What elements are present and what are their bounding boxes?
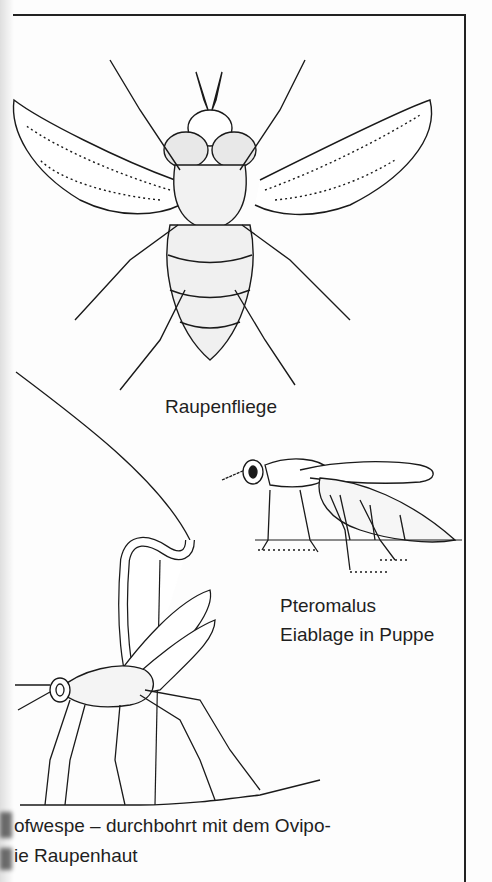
caption-raupenfliege: Raupenfliege — [165, 395, 277, 419]
caption-wasp-line-1: ofwespe – durchbohrt mit dem Ovipo- — [14, 814, 331, 838]
ichneumon-wasp-illustration — [0, 0, 492, 882]
caption-pteromalus-title: Pteromalus — [280, 594, 376, 618]
caption-pteromalus-description: Eiablage in Puppe — [280, 623, 434, 647]
caption-wasp-line-2: ie Raupenhaut — [14, 844, 138, 868]
book-page: Raupenfliege Pteromalus Eiablage in Pupp… — [0, 0, 492, 882]
